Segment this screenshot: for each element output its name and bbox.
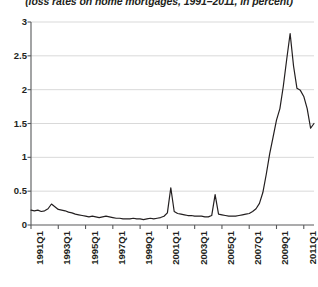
y-tick-label: 1 [22,153,27,163]
x-tick-label: 2007Q1 [253,231,263,265]
y-tick-label: 3 [22,17,27,27]
x-axis: 1991Q11993Q11995Q11997Q11999Q12001Q12003… [31,231,314,287]
y-tick-label: 0 [22,220,27,230]
x-tick-label: 1991Q1 [35,231,45,265]
x-tick-label: 1993Q1 [62,231,72,265]
y-axis: 00.511.522.53 [0,22,27,225]
x-tick-label: 2009Q1 [280,231,290,265]
x-tick-label: 1995Q1 [90,231,100,265]
x-tick-label: 1997Q1 [117,231,127,265]
y-tick-label: 1.5 [14,119,27,129]
chart-title: (loss rates on home mortgages, 1991–2011… [0,0,318,8]
x-tick-label: 2001Q1 [171,231,181,265]
x-tick-label: 2005Q1 [226,231,236,265]
y-tick-label: 0.5 [14,186,27,196]
plot-area [31,22,314,225]
data-series-line [31,22,314,225]
chart-figure: (loss rates on home mortgages, 1991–2011… [0,0,318,287]
y-tick-label: 2.5 [14,51,27,61]
series-path [31,34,314,220]
x-tick-label: 2011Q1 [308,231,318,264]
x-tick-label: 1999Q1 [144,231,154,265]
y-tick-label: 2 [22,85,27,95]
x-tick-label: 2003Q1 [199,231,209,265]
